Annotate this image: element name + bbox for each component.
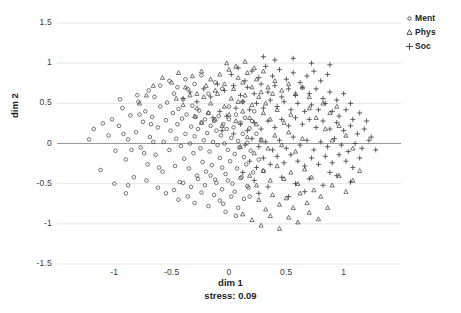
data-point [358, 169, 362, 173]
legend-item-soc[interactable]: Soc [404, 40, 436, 52]
data-point [156, 186, 160, 190]
data-point [307, 91, 312, 96]
data-point [204, 170, 208, 174]
y-tick-label: 1.5 [20, 17, 52, 27]
data-point [291, 134, 296, 139]
data-point [348, 101, 353, 106]
data-point [275, 164, 279, 168]
data-point [184, 132, 188, 136]
data-point [121, 106, 125, 110]
data-point [229, 72, 234, 77]
data-point [261, 69, 265, 73]
data-point [279, 175, 284, 180]
data-point [176, 122, 180, 126]
data-point [277, 67, 282, 72]
data-point [218, 199, 222, 203]
data-point [304, 73, 309, 78]
data-point [320, 118, 325, 123]
data-point [286, 123, 291, 128]
data-point [314, 86, 319, 91]
y-axis-label: dim 2 [9, 93, 20, 118]
data-point [205, 131, 209, 135]
data-point [351, 178, 355, 182]
data-point [193, 82, 197, 86]
data-point [224, 172, 228, 176]
data-point [173, 164, 177, 168]
data-point [355, 131, 360, 136]
data-point [341, 128, 346, 133]
data-point [270, 147, 275, 152]
data-point [335, 104, 339, 108]
data-point [228, 159, 232, 163]
data-point [199, 147, 203, 151]
data-point [218, 156, 222, 160]
series-phys [137, 59, 361, 230]
data-point [255, 132, 259, 136]
data-point [256, 191, 261, 196]
data-point [327, 170, 332, 175]
data-point [242, 155, 246, 159]
data-point [330, 160, 335, 165]
data-point [227, 67, 231, 71]
data-point [156, 126, 160, 130]
data-point [248, 126, 252, 130]
data-point [268, 214, 272, 218]
data-point [250, 218, 254, 222]
data-point [277, 226, 281, 230]
data-point [248, 195, 252, 199]
data-point [233, 190, 237, 194]
data-point [316, 162, 321, 167]
data-point [209, 124, 213, 128]
data-point [174, 137, 178, 141]
data-point [234, 64, 238, 68]
data-point [225, 127, 229, 131]
data-point [264, 207, 268, 211]
data-point [351, 146, 355, 150]
data-point [286, 86, 291, 91]
data-point [314, 125, 319, 130]
data-point [336, 152, 341, 157]
data-point [172, 92, 176, 96]
data-point [219, 134, 223, 138]
data-point [259, 81, 264, 86]
data-point [277, 138, 282, 143]
x-tick-label: -0.5 [152, 267, 192, 277]
data-point [161, 170, 165, 174]
legend-item-ment[interactable]: Ment [404, 12, 436, 24]
data-point [268, 117, 272, 121]
data-point [200, 191, 204, 195]
data-point [210, 163, 214, 167]
data-point [334, 98, 339, 103]
data-point [291, 70, 296, 75]
data-point [251, 171, 255, 175]
y-tick-label: -0.5 [20, 178, 52, 188]
data-point [150, 115, 154, 119]
data-point [208, 150, 212, 154]
data-point [256, 75, 261, 80]
data-point [179, 144, 183, 148]
scatter-plot-figure: dim 2 dim 1 stress: 0.09 Ment Phys Soc 1… [0, 0, 461, 313]
data-point [272, 57, 277, 62]
data-point [316, 107, 321, 112]
data-point [174, 96, 178, 100]
data-point [151, 83, 155, 87]
data-point [241, 132, 245, 136]
data-point [297, 80, 302, 85]
data-point [318, 78, 323, 83]
data-point [302, 163, 307, 168]
data-point [245, 85, 250, 90]
legend-item-phys[interactable]: Phys [404, 26, 436, 38]
data-point [193, 201, 197, 205]
data-point [168, 148, 172, 152]
data-point [270, 73, 275, 78]
data-point [261, 155, 266, 160]
data-point [314, 116, 318, 120]
data-point [241, 109, 245, 113]
data-point [288, 107, 293, 112]
x-axis-label: dim 1 [0, 277, 461, 288]
data-point [243, 116, 247, 120]
data-point [172, 188, 176, 192]
data-point [309, 175, 313, 179]
data-point [277, 202, 281, 206]
data-point [242, 78, 247, 83]
